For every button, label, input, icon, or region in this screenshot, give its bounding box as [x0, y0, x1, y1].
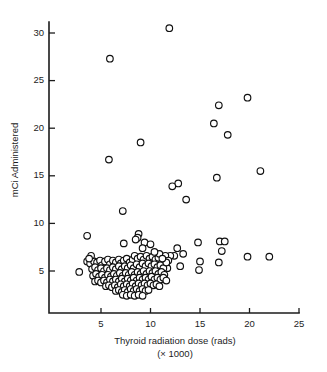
- data-point: [195, 239, 202, 246]
- data-point: [86, 255, 93, 262]
- x-tick-label: 10: [145, 318, 156, 329]
- data-point: [211, 120, 218, 127]
- y-tick-label: 25: [33, 74, 44, 85]
- data-point: [180, 251, 187, 258]
- y-tick-label: 15: [33, 169, 44, 180]
- data-point: [224, 132, 231, 139]
- data-point: [177, 263, 184, 270]
- data-point: [216, 259, 223, 266]
- data-point: [84, 232, 91, 239]
- x-tick-label: 5: [98, 318, 103, 329]
- x-tick-label: 25: [294, 318, 305, 329]
- y-tick-label: 5: [39, 265, 44, 276]
- data-point: [196, 267, 203, 274]
- data-point: [214, 174, 221, 181]
- data-point: [197, 258, 204, 265]
- data-point: [132, 236, 139, 243]
- data-point: [139, 292, 146, 299]
- data-point: [174, 245, 181, 252]
- y-tick-label: 10: [33, 217, 44, 228]
- x-axis-ticks: 510152025: [98, 308, 304, 329]
- data-point: [151, 249, 158, 256]
- data-point: [257, 168, 264, 175]
- data-point: [137, 139, 144, 146]
- y-axis-title: mCi Administered: [9, 123, 20, 197]
- data-point: [76, 269, 83, 276]
- data-point: [218, 248, 225, 255]
- data-point: [139, 245, 146, 252]
- data-point: [244, 94, 251, 101]
- plot-canvas: 510152025 51015202530 Thyroid radiation …: [0, 0, 327, 372]
- data-point: [216, 102, 223, 109]
- data-point: [183, 196, 190, 203]
- data-point: [156, 283, 163, 290]
- data-point: [221, 238, 228, 245]
- data-point: [266, 253, 273, 260]
- x-axis-title-multiplier: (× 1000): [157, 348, 193, 359]
- data-point: [107, 55, 114, 62]
- y-tick-label: 20: [33, 122, 44, 133]
- data-points-group: [76, 25, 273, 299]
- x-tick-label: 20: [244, 318, 255, 329]
- data-point: [163, 277, 170, 284]
- data-point: [120, 240, 127, 247]
- data-point: [147, 241, 154, 248]
- x-tick-label: 15: [195, 318, 206, 329]
- data-point: [145, 287, 152, 294]
- y-tick-label: 30: [33, 27, 44, 38]
- y-axis-ticks: 51015202530: [33, 27, 55, 276]
- data-point: [159, 255, 166, 262]
- data-point: [166, 25, 173, 32]
- data-point: [244, 253, 251, 260]
- data-point: [169, 183, 176, 190]
- scatter-plot-figure: 510152025 51015202530 Thyroid radiation …: [0, 0, 327, 372]
- data-point: [119, 208, 126, 215]
- x-axis-title: Thyroid radiation dose (rads): [114, 335, 235, 346]
- data-point: [106, 156, 113, 163]
